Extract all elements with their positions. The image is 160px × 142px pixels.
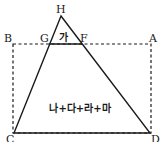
region-label-lower: 나+다+라+마	[49, 102, 111, 114]
label-c: C	[6, 133, 14, 142]
label-a: A	[148, 32, 158, 45]
label-d: D	[151, 133, 160, 142]
label-f: F	[80, 32, 88, 45]
region-label-top: 가	[59, 31, 69, 43]
label-b: B	[4, 32, 12, 45]
label-h: H	[56, 3, 66, 16]
dashed-rectangle	[13, 44, 151, 133]
geometry-diagram: H G F A B C D 가 나+다+라+마	[0, 0, 160, 142]
label-g: G	[40, 32, 49, 45]
